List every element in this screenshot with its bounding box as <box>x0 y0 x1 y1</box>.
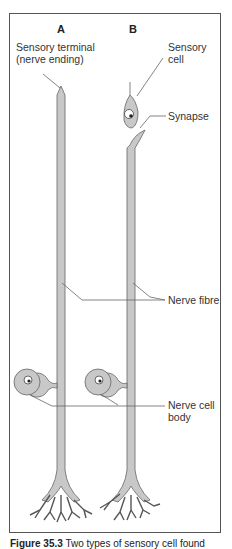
label-nerve-ending: (nerve ending) <box>16 53 84 65</box>
panel-label-a: A <box>57 23 65 35</box>
neuron-a <box>14 86 80 502</box>
panel-label-b: B <box>129 23 137 35</box>
label-sensory-cell-line1: Sensory <box>168 41 207 53</box>
dendrites-a <box>30 495 92 522</box>
label-sensory-terminal: Sensory terminal <box>16 41 95 53</box>
caption-text: Two types of sensory cell found <box>63 538 205 549</box>
label-synapse: Synapse <box>168 110 209 122</box>
figure-number: Figure 35.3 <box>10 538 63 549</box>
label-nerve-cell-line1: Nerve cell <box>168 399 215 411</box>
label-nerve-cell-line2: body <box>168 411 191 423</box>
sensory-cell-b <box>124 82 138 128</box>
figure-caption: Figure 35.3 Two types of sensory cell fo… <box>10 538 205 549</box>
leader-lines <box>30 58 166 406</box>
dendrites-b <box>100 494 160 520</box>
label-sensory-cell-line2: cell <box>168 53 184 65</box>
label-nerve-fibre: Nerve fibre <box>168 294 219 306</box>
neuron-b <box>85 130 150 502</box>
